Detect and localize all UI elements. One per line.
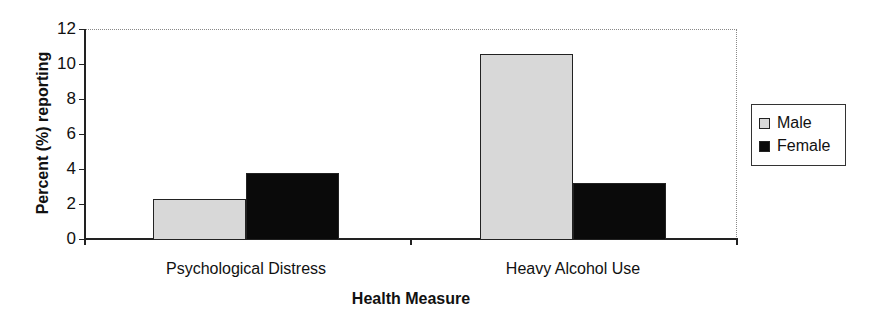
category-label: Psychological Distress <box>116 260 376 278</box>
female-swatch-icon <box>759 141 770 152</box>
legend-label: Male <box>777 114 812 132</box>
y-tick <box>79 64 85 66</box>
x-tick <box>410 239 412 245</box>
legend-item-female: Female <box>759 137 830 155</box>
x-tick <box>84 239 86 245</box>
y-tick <box>79 134 85 136</box>
legend-label: Female <box>777 137 830 155</box>
y-tick <box>79 169 85 171</box>
y-tick <box>79 29 85 31</box>
bar-male <box>153 199 246 240</box>
legend: Male Female <box>751 104 846 166</box>
bar-female <box>246 173 339 241</box>
x-tick <box>736 239 738 245</box>
bar-female <box>573 183 666 240</box>
bar-male <box>480 54 573 241</box>
y-tick <box>79 99 85 101</box>
category-label: Heavy Alcohol Use <box>443 260 703 278</box>
y-tick <box>79 204 85 206</box>
x-axis-title: Health Measure <box>311 290 511 308</box>
male-swatch-icon <box>759 118 770 129</box>
y-axis-title: Percent (%) reporting <box>34 33 52 233</box>
legend-item-male: Male <box>759 114 812 132</box>
